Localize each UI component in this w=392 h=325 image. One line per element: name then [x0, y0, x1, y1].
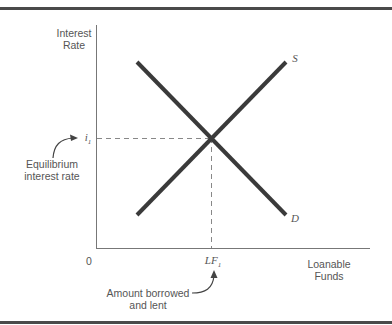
x-axis-label: Loanable Funds	[300, 258, 358, 282]
quantity-annotation: Amount borrowed and lent	[100, 287, 196, 311]
quantity-tick-label: LF1	[200, 254, 226, 271]
rate-arrowhead-icon	[70, 135, 78, 142]
rate-tick-label: i1	[82, 131, 94, 148]
equilibrium-rate-annotation: Equilibrium interest rate	[14, 158, 90, 182]
quantity-arrowhead-icon	[211, 270, 218, 278]
demand-label: D	[290, 212, 300, 224]
supply-label: S	[290, 52, 300, 64]
rate-annotation-arrow	[53, 138, 73, 158]
y-axis-label: Interest Rate	[52, 27, 96, 51]
origin-label: 0	[83, 255, 95, 267]
